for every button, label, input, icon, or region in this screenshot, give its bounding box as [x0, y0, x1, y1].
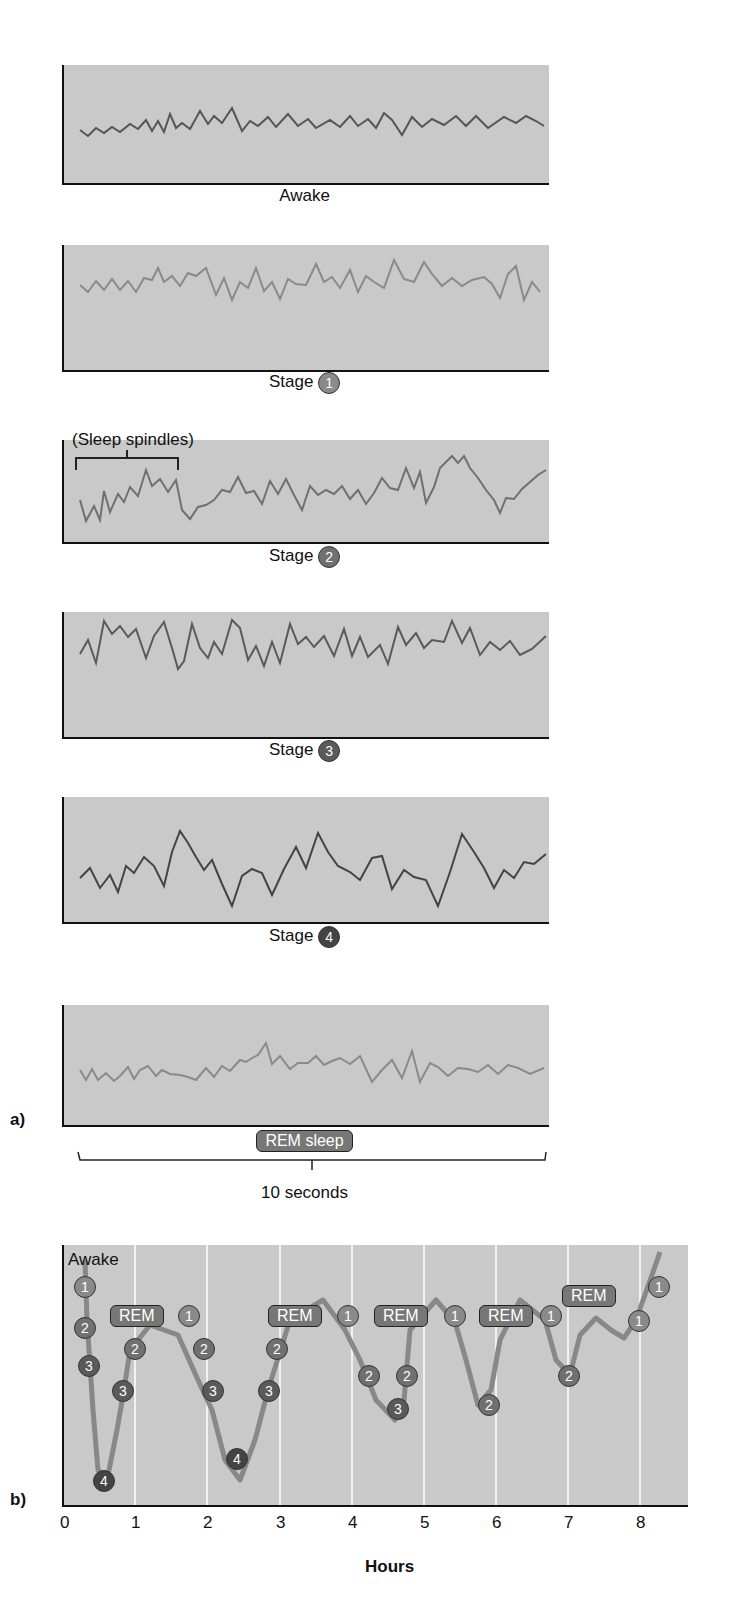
- sleep-stages-figure: Awake Stage 1 (Sleep spindles) Stage 2 S…: [0, 0, 732, 1610]
- awake-axis-label: Awake: [68, 1250, 119, 1270]
- x-axis-title: Hours: [365, 1557, 414, 1577]
- part-b-label: b): [10, 1490, 26, 1510]
